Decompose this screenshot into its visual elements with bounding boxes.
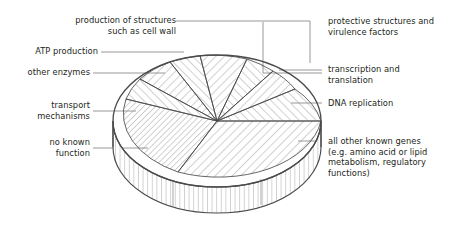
label-no-known-function: no known function xyxy=(10,137,90,158)
label-transport-mechanisms: transport mechanisms xyxy=(10,100,90,121)
label-dna-replication: DNA replication xyxy=(328,98,452,109)
label-other-enzymes: other enzymes xyxy=(10,67,90,78)
pie-top-face xyxy=(123,55,321,177)
label-protective-structures: protective structures and virulence fact… xyxy=(328,16,456,37)
label-production-structures: production of structures such as cell wa… xyxy=(10,15,176,36)
label-all-other-known-genes: all other known genes (e.g. amino acid o… xyxy=(328,136,456,178)
label-atp-production: ATP production xyxy=(10,46,98,57)
label-transcription-translation: transcription and translation xyxy=(328,64,452,85)
